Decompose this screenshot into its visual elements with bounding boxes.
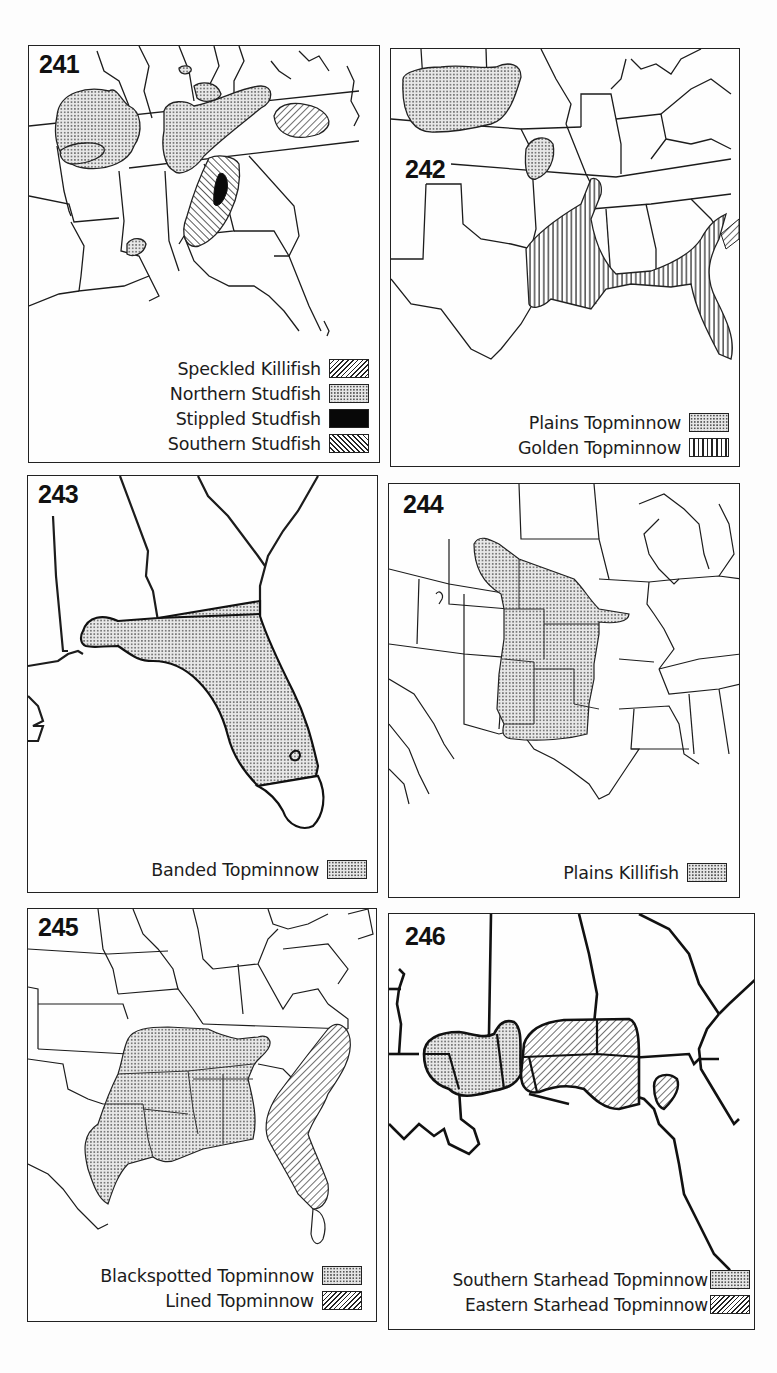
map-panel-244: 244 Plains Killifish <box>388 483 740 898</box>
legend-label: Southern Studfish <box>168 434 321 454</box>
legend-label: Eastern Starhead Topminnow <box>465 1295 708 1315</box>
figure-number: 246 <box>405 922 445 951</box>
map-panel-245: 245 Blackspotted Topminnow Lined Topminn… <box>27 908 377 1322</box>
legend-label: Stippled Studfish <box>176 409 321 429</box>
stipple-swatch-icon <box>327 860 367 879</box>
legend-label: Plains Killifish <box>563 863 679 883</box>
stipple-swatch-icon <box>687 863 727 882</box>
legend-label: Northern Studfish <box>170 384 321 404</box>
legend: Plains Topminnow Golden Topminnow <box>518 410 729 460</box>
stipple-swatch-icon <box>689 413 729 432</box>
figure-number: 245 <box>38 913 78 942</box>
legend: Banded Topminnow <box>151 857 367 882</box>
legend-label: Golden Topminnow <box>518 438 681 458</box>
range-map-243 <box>28 476 378 893</box>
legend: Plains Killifish <box>563 860 727 885</box>
stipple-swatch-icon <box>322 1266 362 1285</box>
legend-label: Blackspotted Topminnow <box>100 1266 314 1286</box>
legend-item: Stippled Studfish <box>168 406 369 431</box>
diagonal-hatch-swatch-icon <box>710 1295 750 1314</box>
legend-label: Plains Topminnow <box>529 413 681 433</box>
figure-number: 241 <box>39 50 79 79</box>
stipple-swatch-icon <box>329 384 369 403</box>
legend-label: Speckled Killifish <box>177 359 321 379</box>
stipple-swatch-icon <box>710 1270 750 1289</box>
vertical-lines-swatch-icon <box>689 438 729 457</box>
legend-label: Southern Starhead Topminnow <box>452 1270 708 1290</box>
diagonal-hatch-swatch-icon <box>322 1291 362 1310</box>
back-hatch-swatch-icon <box>329 434 369 453</box>
legend: Speckled Killifish Northern Studfish Sti… <box>168 356 369 456</box>
legend-item: Plains Killifish <box>563 860 727 885</box>
legend-item: Banded Topminnow <box>151 857 367 882</box>
figure-number: 242 <box>405 155 445 184</box>
legend: Southern Starhead Topminnow Eastern Star… <box>452 1267 750 1317</box>
diagonal-hatch-swatch-icon <box>329 359 369 378</box>
legend-item: Northern Studfish <box>168 381 369 406</box>
map-panel-241: 241 Speckled Killifish Northern Studfish… <box>28 45 380 463</box>
figure-number: 244 <box>403 490 443 519</box>
figure-number: 243 <box>38 480 78 509</box>
legend-label: Banded Topminnow <box>151 860 319 880</box>
range-map-245 <box>28 909 377 1322</box>
legend-item: Plains Topminnow <box>518 410 729 435</box>
legend: Blackspotted Topminnow Lined Topminnow <box>100 1263 362 1313</box>
solid-black-swatch-icon <box>329 409 369 428</box>
map-panel-243: 243 Banded Topminnow <box>27 475 378 893</box>
legend-item: Southern Studfish <box>168 431 369 456</box>
range-map-242 <box>391 49 740 467</box>
legend-item: Blackspotted Topminnow <box>100 1263 362 1288</box>
legend-item: Lined Topminnow <box>100 1288 362 1313</box>
map-panel-246: 246 Southern Starhead Topminnow Eastern … <box>388 913 755 1330</box>
legend-item: Southern Starhead Topminnow <box>452 1267 750 1292</box>
legend-item: Speckled Killifish <box>168 356 369 381</box>
range-map-244 <box>389 484 740 898</box>
legend-item: Golden Topminnow <box>518 435 729 460</box>
legend-label: Lined Topminnow <box>165 1291 314 1311</box>
legend-item: Eastern Starhead Topminnow <box>452 1292 750 1317</box>
map-panel-242: 242 Plains Topminnow Golden Topminnow <box>390 48 740 467</box>
